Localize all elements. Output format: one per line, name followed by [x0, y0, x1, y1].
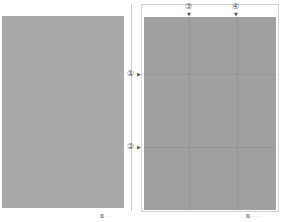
gray-panel-left — [2, 16, 124, 208]
arrow-down-icon: ▼ — [187, 12, 191, 17]
figure-caption-left: 图 · · · — [100, 213, 112, 219]
grid-line-h2 — [144, 147, 276, 148]
marker-1: ① — [127, 70, 134, 78]
gray-panel-right-grid — [144, 17, 276, 210]
arrow-down-icon: ▼ — [234, 12, 238, 17]
grid-line-h1 — [144, 74, 276, 75]
marker-3: ③ — [185, 3, 192, 11]
figure-caption-right: 图 · · · · — [246, 213, 260, 219]
divider — [131, 4, 138, 211]
grid-line-v2 — [237, 17, 238, 210]
marker-4: ④ — [232, 3, 239, 11]
arrow-right-icon: ▶ — [137, 72, 141, 77]
arrow-right-icon: ▶ — [137, 145, 141, 150]
marker-2: ② — [127, 143, 134, 151]
grid-line-v1 — [189, 17, 190, 210]
